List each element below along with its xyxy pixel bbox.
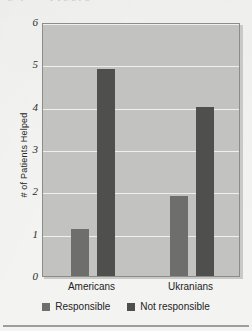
legend-label: Responsible <box>55 301 110 312</box>
y-axis-title: # of Patients Helped <box>19 85 29 225</box>
x-axis-tick-labels: AmericansUkranians <box>42 281 240 297</box>
bar-chart: 0123456 # of Patients Helped AmericansUk… <box>0 0 252 331</box>
x-axis-tick-ukranians: Ukranians <box>141 281 240 292</box>
y-axis-tick-1: 1 <box>14 229 38 240</box>
page-bottom-rule <box>3 325 249 327</box>
legend-swatch-icon <box>42 303 50 311</box>
legend-label: Not responsible <box>140 301 209 312</box>
y-axis-tick-6: 6 <box>14 17 38 28</box>
legend-swatch-icon <box>127 303 135 311</box>
y-axis-tick-0: 0 <box>14 271 38 282</box>
x-axis-tick-americans: Americans <box>42 281 141 292</box>
y-axis-tick-5: 5 <box>14 59 38 70</box>
legend-item-responsible[interactable]: Responsible <box>42 301 110 312</box>
legend-item-not-responsible[interactable]: Not responsible <box>127 301 209 312</box>
chart-legend: ResponsibleNot responsible <box>0 301 252 312</box>
